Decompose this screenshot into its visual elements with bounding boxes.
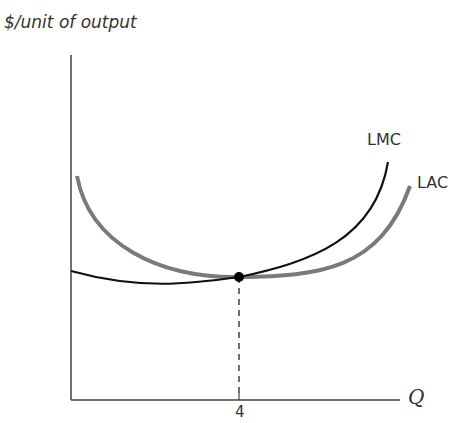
intersection-point: [234, 272, 244, 282]
chart-canvas: [0, 0, 476, 423]
lmc-label: LMC: [367, 130, 401, 149]
x-tick-label: 4: [235, 403, 245, 421]
x-axis-label: Q: [408, 385, 424, 409]
y-axis-label: $/unit of output: [4, 12, 137, 32]
lac-label: LAC: [417, 173, 448, 192]
lac-curve: [77, 176, 410, 277]
